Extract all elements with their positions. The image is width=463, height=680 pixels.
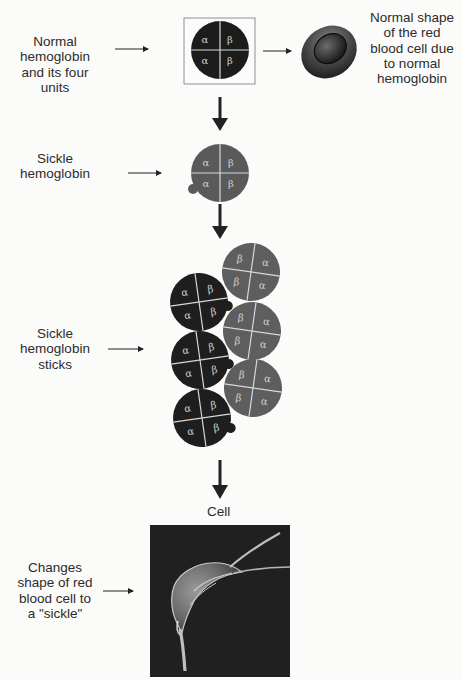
- svg-text:β: β: [228, 178, 234, 189]
- down-arrow-icon: [212, 204, 228, 239]
- alpha-subunit: α: [202, 34, 209, 45]
- sickle-hemoglobin-polymer: β α β α β α β α β α β α: [166, 239, 286, 451]
- beta-subunit: β: [227, 34, 233, 45]
- alpha-subunit: α: [202, 55, 209, 66]
- svg-text:α: α: [203, 157, 210, 168]
- down-arrow-icon: [212, 97, 228, 131]
- svg-text:α: α: [203, 178, 210, 189]
- normal-hemoglobin: α β α β: [184, 18, 255, 84]
- beta-subunit: β: [227, 55, 233, 66]
- hemoglobin-diagram: α β α β α β α β: [0, 0, 463, 680]
- down-arrow-icon: [212, 460, 228, 499]
- sickle-hemoglobin: α β α β: [188, 144, 249, 202]
- svg-text:β: β: [228, 157, 234, 168]
- red-blood-cell-icon: [291, 15, 367, 89]
